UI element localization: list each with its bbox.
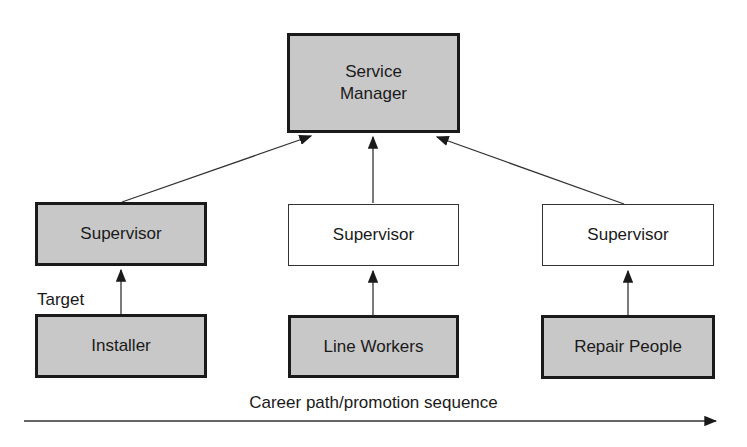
target-annotation: Target <box>37 290 84 310</box>
node-supervisor-repair-people: Supervisor <box>542 204 714 266</box>
node-label: Supervisor <box>587 224 668 246</box>
node-label: Manager <box>340 83 407 105</box>
node-repair-people: Repair People <box>541 315 715 379</box>
node-label: Line Workers <box>324 336 424 358</box>
node-supervisor-installer: Supervisor <box>35 202 207 266</box>
node-label: Service <box>345 61 402 83</box>
node-label: Supervisor <box>333 224 414 246</box>
node-supervisor-line-workers: Supervisor <box>288 204 459 266</box>
node-label: Supervisor <box>80 223 161 245</box>
node-installer: Installer <box>35 314 207 378</box>
node-line-workers: Line Workers <box>288 315 459 378</box>
career-path-axis-label: Career path/promotion sequence <box>0 393 747 413</box>
node-service-manager: Service Manager <box>287 33 460 133</box>
node-label: Installer <box>91 335 151 357</box>
node-label: Repair People <box>574 336 682 358</box>
